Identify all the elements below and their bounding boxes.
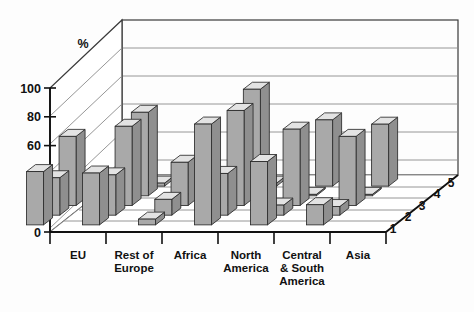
bar-front-face (316, 120, 333, 186)
y-axis-unit-label: % (77, 37, 88, 51)
bar-front-face (139, 219, 156, 225)
bar-side-face (300, 122, 309, 205)
y-tick-80: 80 (27, 110, 41, 124)
category-label: America (279, 275, 325, 287)
category-label: EU (70, 249, 86, 261)
bar-side-face (356, 129, 365, 205)
bar-side-face (148, 105, 157, 196)
bar-front-face (339, 136, 356, 205)
bar-side-face (212, 117, 221, 225)
bar-3d (316, 113, 342, 186)
bar-side-face (268, 155, 277, 225)
bar-side-face (116, 168, 125, 215)
y-tick-0: 0 (34, 226, 41, 240)
bar-front-face (307, 205, 324, 225)
bar-3d (83, 166, 109, 225)
bar-front-face (83, 173, 100, 225)
bar-3d (372, 117, 398, 186)
bar-3d (307, 198, 333, 225)
category-label: Rest of (115, 249, 154, 261)
y-tick-60: 60 (27, 139, 41, 153)
bar-chart-3d: 0 20 40 60 80 100 % 1 2 3 4 (0, 0, 474, 312)
category-label: America (223, 262, 269, 274)
bar-3d (195, 117, 221, 225)
bar-3d (339, 129, 365, 205)
bar-front-face (283, 129, 300, 205)
bar-3d (283, 122, 309, 205)
category-label: Central (282, 249, 322, 261)
bar-side-face (100, 166, 109, 225)
bar-front-face (251, 162, 268, 225)
category-label: Africa (174, 249, 207, 261)
bar-front-face (372, 124, 389, 186)
depth-tick-3: 3 (419, 199, 426, 213)
depth-tick-2: 2 (405, 210, 412, 224)
bar-3d (251, 155, 277, 225)
bar-3d (27, 165, 53, 225)
depth-tick-4: 4 (434, 187, 441, 201)
bar-side-face (60, 171, 69, 215)
depth-tick-1: 1 (390, 222, 397, 236)
category-label: & South (280, 262, 324, 274)
bar-front-face (195, 124, 212, 225)
bar-front-face (27, 172, 44, 225)
chart-container: 0 20 40 60 80 100 % 1 2 3 4 (0, 0, 474, 312)
bar-side-face (389, 117, 398, 186)
depth-tick-5: 5 (448, 176, 455, 190)
bar-side-face (44, 165, 53, 225)
bar-side-face (132, 119, 141, 205)
y-tick-100: 100 (20, 82, 41, 96)
category-label: Europe (114, 262, 154, 274)
bar-side-face (228, 166, 237, 215)
category-label: Asia (346, 249, 371, 261)
category-label: North (231, 249, 262, 261)
